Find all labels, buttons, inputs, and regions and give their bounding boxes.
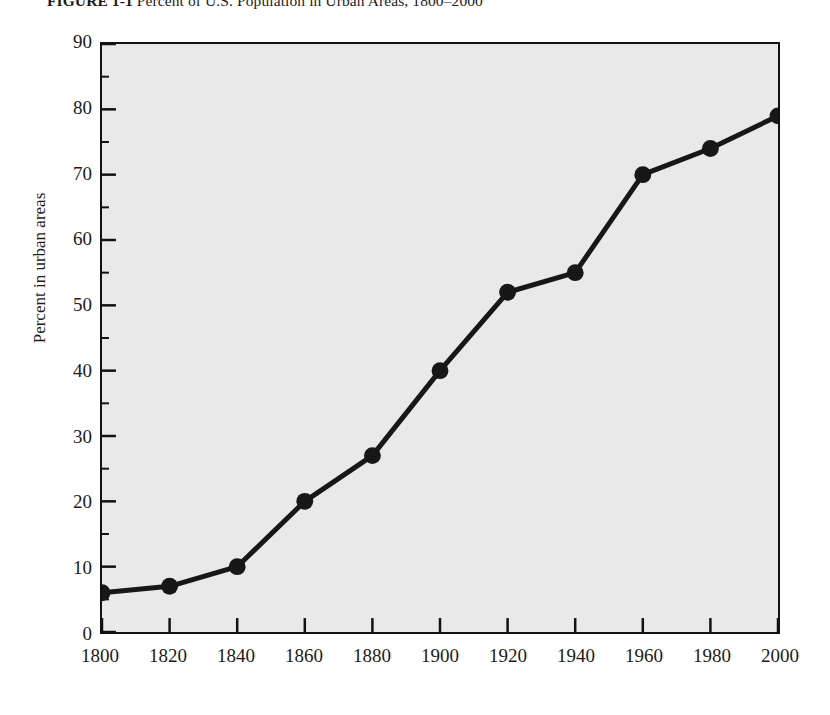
axis-major-ticks [102, 44, 778, 632]
x-tick-label: 2000 [735, 646, 825, 665]
figure-caption: FIGURE 1-1 Percent of U.S. Population in… [47, 0, 807, 11]
x-axis-tick-labels: 1800182018401860188019001920194019601980… [0, 646, 830, 676]
data-point [702, 140, 719, 157]
data-point [499, 284, 516, 301]
y-tick-label: 0 [46, 624, 92, 643]
plot-area [100, 42, 780, 634]
y-tick-label: 30 [46, 427, 92, 446]
y-tick-label: 20 [46, 492, 92, 511]
data-point [161, 578, 178, 595]
data-point [634, 166, 651, 183]
data-point [229, 558, 246, 575]
y-tick-label: 60 [46, 229, 92, 248]
figure-caption-text: Percent of U.S. Population in Urban Area… [137, 0, 483, 9]
data-point [102, 584, 110, 601]
y-axis-tick-labels: 0102030405060708090 [40, 0, 92, 715]
y-tick-label: 80 [46, 98, 92, 117]
figure-container: FIGURE 1-1 Percent of U.S. Population in… [0, 0, 830, 715]
y-tick-label: 40 [46, 361, 92, 380]
y-tick-label: 10 [46, 558, 92, 577]
data-series-markers [102, 107, 778, 601]
y-tick-label: 50 [46, 295, 92, 314]
data-series-line [102, 116, 778, 593]
y-tick-label: 90 [46, 32, 92, 51]
data-point [432, 362, 449, 379]
line-chart-svg [102, 44, 778, 632]
y-tick-label: 70 [46, 164, 92, 183]
data-point [364, 447, 381, 464]
data-point [296, 493, 313, 510]
data-point [567, 264, 584, 281]
axis-minor-ticks [102, 77, 109, 600]
